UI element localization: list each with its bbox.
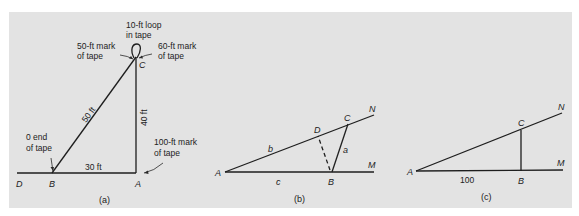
side-label-b: b bbox=[268, 144, 273, 154]
point-label-b: B bbox=[518, 176, 524, 186]
annotation-50ft-1: 50-ft mark bbox=[77, 41, 116, 51]
point-label-m: M bbox=[368, 160, 376, 170]
panel-a-caption: (a) bbox=[99, 195, 110, 205]
annotation-50ft-2: of tape bbox=[77, 51, 103, 61]
surveying-figure: D B A C 50 ft 40 ft 30 ft 10-ft loop in … bbox=[0, 0, 579, 216]
annotation-100ft-1: 100-ft mark bbox=[154, 137, 198, 147]
panel-b-caption: (b) bbox=[294, 194, 305, 204]
annotation-zero-1: 0 end bbox=[26, 132, 48, 142]
point-label-n: N bbox=[558, 102, 565, 112]
annotation-60ft-2: of tape bbox=[158, 51, 184, 61]
point-label-a: A bbox=[406, 167, 413, 177]
length-ab: 100 bbox=[460, 175, 474, 185]
point-label-m: M bbox=[557, 158, 565, 168]
point-label-b: B bbox=[328, 177, 334, 187]
length-ca: 40 ft bbox=[139, 109, 149, 126]
annotation-100ft-2: of tape bbox=[154, 148, 180, 158]
point-label-c: C bbox=[518, 118, 525, 128]
side-label-a: a bbox=[343, 145, 348, 155]
point-label-d: D bbox=[16, 179, 23, 189]
annotation-loop-2: in tape bbox=[126, 30, 152, 40]
panel-c-caption: (c) bbox=[481, 192, 492, 202]
side-label-c: c bbox=[276, 177, 281, 187]
annotation-zero-2: of tape bbox=[26, 143, 52, 153]
length-ba: 30 ft bbox=[85, 162, 102, 172]
annotation-loop-1: 10-ft loop bbox=[126, 20, 162, 30]
point-label-a: A bbox=[214, 168, 221, 178]
point-label-b: B bbox=[49, 179, 55, 189]
point-label-d: D bbox=[314, 125, 321, 135]
point-label-c: C bbox=[139, 60, 146, 70]
point-label-a: A bbox=[134, 179, 141, 189]
point-label-n: N bbox=[369, 104, 376, 114]
annotation-60ft-1: 60-ft mark bbox=[158, 41, 197, 51]
point-label-c: C bbox=[344, 113, 351, 123]
